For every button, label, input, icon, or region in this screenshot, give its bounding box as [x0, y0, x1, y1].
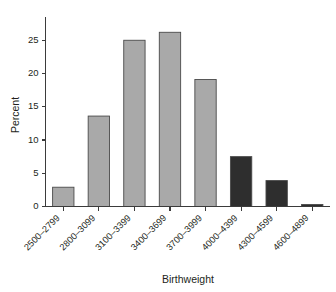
y-axis-title: Percent	[9, 97, 21, 133]
bar	[266, 181, 287, 207]
bar	[230, 157, 251, 207]
bar	[124, 40, 145, 206]
y-tick-label: 0	[33, 200, 38, 211]
y-tick-label: 25	[28, 34, 39, 45]
bar	[195, 80, 216, 207]
chart-canvas: 0510152025 2500–27992800–30993100–339934…	[0, 0, 336, 292]
y-tick-label: 20	[28, 67, 39, 78]
y-tick-label: 15	[28, 100, 39, 111]
birthweight-percent-bar-chart: 0510152025 2500–27992800–30993100–339934…	[0, 0, 336, 292]
bar	[88, 116, 109, 206]
y-tick-label: 10	[28, 134, 39, 145]
bar	[53, 187, 74, 206]
bar	[159, 32, 180, 206]
y-tick-label: 5	[33, 167, 38, 178]
x-axis-title: Birthweight	[162, 273, 214, 285]
